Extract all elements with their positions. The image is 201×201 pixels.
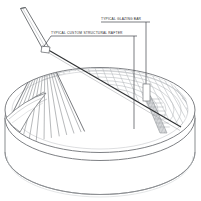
label-typical-glazing-bar: TYPICAL GLAZING BAR <box>101 18 141 21</box>
drawing-canvas: TYPICAL GLAZING BAR TYPICAL CUSTOM STRUC… <box>0 0 201 201</box>
mast-node-plate <box>41 46 50 53</box>
label-typical-custom-structural-rafter: TYPICAL CUSTOM STRUCTURAL RAFTER <box>51 32 123 35</box>
glazing-bar-callout-box <box>143 84 150 101</box>
mast-centerline <box>23 8 47 49</box>
inclined-mast-beam <box>21 8 51 54</box>
